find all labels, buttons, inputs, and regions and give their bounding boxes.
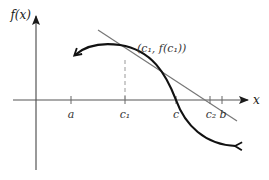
- y-axis-label: f(x): [9, 8, 31, 22]
- tick-label-b: b: [219, 108, 226, 121]
- diagram-canvas: f(x) x (c₁, f(c₁)) a c₁ c c₂ b: [0, 0, 269, 180]
- tick-label-c: c: [173, 108, 179, 121]
- newton-method-diagram: f(x) x (c₁, f(c₁)) a c₁ c c₂ b: [0, 0, 269, 180]
- tangent-point-label: (c₁, f(c₁)): [137, 42, 186, 55]
- x-axis-label: x: [253, 93, 260, 107]
- tick-label-a: a: [68, 108, 75, 121]
- tick-label-c1: c₁: [120, 108, 131, 121]
- tick-label-c2: c₂: [206, 108, 217, 121]
- function-curve: [75, 44, 236, 146]
